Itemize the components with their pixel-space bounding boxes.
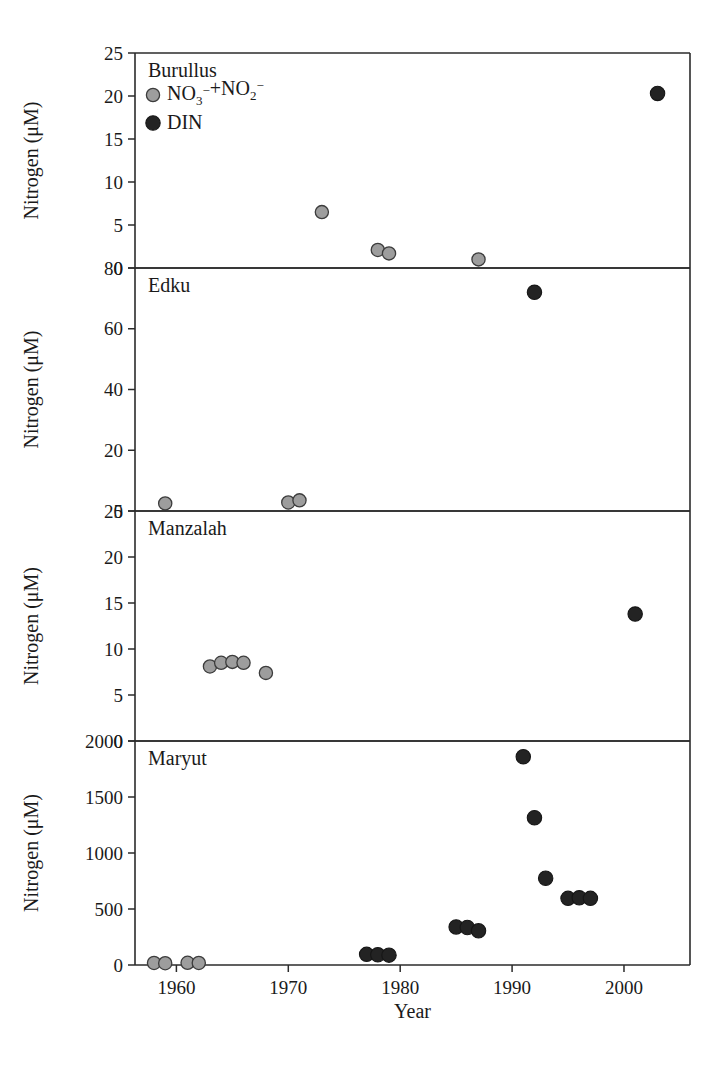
x-tick-label: 1990 — [493, 977, 531, 998]
data-point-no3-no2 — [315, 206, 328, 219]
y-tick-label: 20 — [104, 86, 123, 107]
panel-title-edku: Edku — [148, 274, 190, 296]
nitrogen-scatter-figure: 0510152025BurullusNitrogen (μM)020406080… — [0, 0, 715, 1066]
y-tick-label: 25 — [104, 501, 123, 522]
panel-burullus: 0510152025Burullus — [104, 43, 690, 279]
data-point-din — [516, 749, 530, 763]
data-point-din — [650, 86, 664, 100]
data-point-no3-no2 — [159, 957, 172, 970]
panel-title-manzalah: Manzalah — [148, 517, 227, 539]
data-point-no3-no2 — [237, 656, 250, 669]
panel-title-burullus: Burullus — [148, 59, 217, 81]
y-axis-label: Nitrogen (μM) — [20, 567, 43, 685]
x-tick-label: 1970 — [269, 977, 307, 998]
y-tick-label: 1500 — [85, 787, 123, 808]
y-tick-label: 40 — [104, 379, 123, 400]
x-tick-label: 1980 — [381, 977, 419, 998]
data-point-din — [538, 871, 552, 885]
y-tick-label: 2000 — [85, 731, 123, 752]
x-tick-label: 2000 — [605, 977, 643, 998]
data-point-no3-no2 — [259, 666, 272, 679]
x-tick-label: 1960 — [157, 977, 195, 998]
y-tick-label: 20 — [104, 547, 123, 568]
panel-maryut: 050010001500200019601970198019902000Mary… — [85, 731, 690, 999]
data-point-din — [527, 811, 541, 825]
y-tick-label: 10 — [104, 639, 123, 660]
data-point-din — [527, 285, 541, 299]
y-tick-label: 20 — [104, 440, 123, 461]
y-tick-label: 1000 — [85, 843, 123, 864]
y-axis-label: Nitrogen (μM) — [20, 331, 43, 449]
legend-marker-din — [146, 116, 160, 130]
data-point-no3-no2 — [192, 956, 205, 969]
data-point-no3-no2 — [293, 494, 306, 507]
data-point-din — [583, 891, 597, 905]
legend-label-din: DIN — [167, 111, 203, 133]
y-tick-label: 25 — [104, 43, 123, 64]
panel-title-maryut: Maryut — [148, 747, 207, 770]
x-axis-label: Year — [394, 1000, 431, 1022]
legend-label-no3-no2: NO3−+NO2− — [167, 77, 264, 108]
legend: NO3−+NO2−DIN — [146, 77, 264, 133]
data-point-din — [471, 924, 485, 938]
data-point-no3-no2 — [382, 247, 395, 260]
y-tick-label: 5 — [114, 215, 124, 236]
y-tick-label: 60 — [104, 318, 123, 339]
y-axis-label: Nitrogen (μM) — [20, 794, 43, 912]
panel-manzalah: 0510152025Manzalah — [104, 501, 690, 752]
data-point-din — [628, 607, 642, 621]
y-axis-label: Nitrogen (μM) — [20, 102, 43, 220]
y-tick-label: 15 — [104, 593, 123, 614]
legend-marker-no3-no2 — [146, 88, 159, 101]
y-tick-label: 500 — [95, 899, 124, 920]
data-point-din — [382, 948, 396, 962]
panel-edku: 020406080Edku — [104, 258, 690, 522]
y-tick-label: 80 — [104, 258, 123, 279]
y-tick-label: 5 — [114, 685, 124, 706]
figure-container: 0510152025BurullusNitrogen (μM)020406080… — [0, 0, 715, 1066]
data-point-no3-no2 — [159, 497, 172, 510]
y-tick-label: 15 — [104, 129, 123, 150]
data-point-no3-no2 — [472, 253, 485, 266]
y-tick-label: 10 — [104, 172, 123, 193]
y-tick-label: 0 — [114, 955, 124, 976]
